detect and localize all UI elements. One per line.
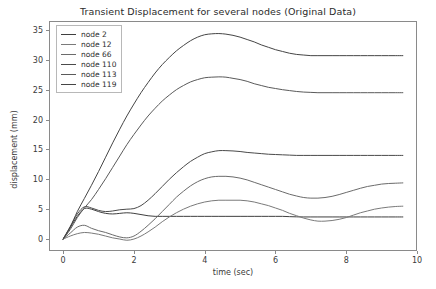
legend-line-icon bbox=[61, 84, 76, 85]
legend-item-node-110[interactable]: node 110 bbox=[61, 59, 116, 69]
legend-line-icon bbox=[61, 44, 76, 45]
series-line-node-2 bbox=[63, 208, 403, 239]
x-axis-label: time (sec) bbox=[49, 268, 417, 277]
x-tick-label: 0 bbox=[61, 256, 66, 265]
legend-line-icon bbox=[61, 54, 76, 55]
x-tick-mark bbox=[275, 251, 276, 254]
y-tick-label: 0 bbox=[3, 235, 43, 244]
x-tick-mark bbox=[205, 251, 206, 254]
series-line-node-66 bbox=[63, 176, 403, 239]
legend-item-label: node 66 bbox=[81, 50, 112, 59]
y-tick-label: 5 bbox=[3, 205, 43, 214]
legend-item-node-12[interactable]: node 12 bbox=[61, 39, 116, 49]
x-tick-label: 2 bbox=[131, 256, 136, 265]
x-tick-label: 10 bbox=[412, 256, 422, 265]
x-tick-mark bbox=[134, 251, 135, 254]
legend-item-node-119[interactable]: node 119 bbox=[61, 79, 116, 89]
y-tick-label: 15 bbox=[3, 145, 43, 154]
legend-item-label: node 119 bbox=[81, 80, 116, 89]
legend-item-node-66[interactable]: node 66 bbox=[61, 49, 116, 59]
chart-title: Transient Displacement for several nodes… bbox=[0, 6, 436, 17]
y-tick-label: 30 bbox=[3, 55, 43, 64]
legend-line-icon bbox=[61, 74, 76, 75]
legend-item-label: node 113 bbox=[81, 70, 116, 79]
y-tick-label: 35 bbox=[3, 25, 43, 34]
y-tick-label: 10 bbox=[3, 175, 43, 184]
legend-item-node-113[interactable]: node 113 bbox=[61, 69, 116, 79]
legend-item-label: node 2 bbox=[81, 30, 107, 39]
legend-item-node-2[interactable]: node 2 bbox=[61, 29, 116, 39]
y-tick-label: 25 bbox=[3, 85, 43, 94]
x-tick-mark bbox=[417, 251, 418, 254]
x-tick-label: 4 bbox=[202, 256, 207, 265]
chart-legend: node 2node 12node 66node 110node 113node… bbox=[56, 25, 122, 93]
x-tick-mark bbox=[63, 251, 64, 254]
series-line-node-12 bbox=[63, 200, 403, 240]
legend-line-icon bbox=[61, 64, 76, 65]
x-tick-mark bbox=[346, 251, 347, 254]
x-tick-label: 8 bbox=[344, 256, 349, 265]
series-line-node-113 bbox=[63, 77, 403, 239]
chart-figure: Transient Displacement for several nodes… bbox=[0, 0, 436, 289]
x-tick-label: 6 bbox=[273, 256, 278, 265]
y-tick-label: 20 bbox=[3, 115, 43, 124]
legend-line-icon bbox=[61, 34, 76, 35]
series-line-node-110 bbox=[63, 151, 403, 240]
legend-item-label: node 12 bbox=[81, 40, 112, 49]
legend-item-label: node 110 bbox=[81, 60, 116, 69]
